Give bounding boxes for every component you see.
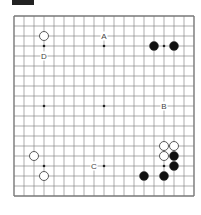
go-board: ADBC [0,0,201,215]
black-stone [150,42,159,51]
star-point [43,105,46,108]
white-stone [40,32,49,41]
white-stone [170,142,179,151]
black-stone [170,162,179,171]
white-stone [160,142,169,151]
board-label-b: B [161,102,166,111]
board-label-a: A [101,32,107,41]
star-point [163,165,166,168]
star-point [43,45,46,48]
star-point [103,105,106,108]
white-stone [30,152,39,161]
star-point [43,165,46,168]
star-point [163,45,166,48]
black-stone [170,152,179,161]
star-point [103,165,106,168]
black-stone [140,172,149,181]
white-stone [160,152,169,161]
board-label-c: C [91,162,97,171]
black-stone [160,172,169,181]
board-label-d: D [41,52,47,61]
white-stone [40,172,49,181]
black-stone [170,42,179,51]
star-point [103,45,106,48]
